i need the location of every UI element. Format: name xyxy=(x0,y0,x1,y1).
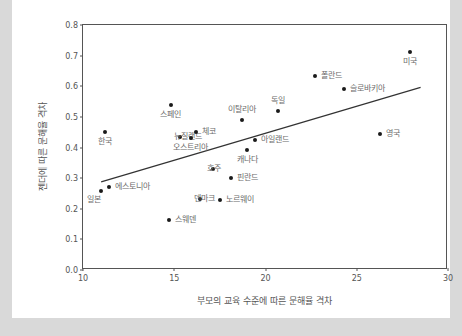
data-point-label: 스웨덴 xyxy=(175,216,196,224)
data-point-label: 아일랜드 xyxy=(261,136,289,144)
data-point xyxy=(103,130,107,134)
y-axis-title-text: 젠더에 따른 문해율 격차 xyxy=(36,102,49,191)
data-point xyxy=(253,138,257,142)
data-point xyxy=(408,50,412,54)
data-point-label: 한국 xyxy=(98,138,112,146)
x-axis-title: 부모의 교육 수준에 따른 문해율 격차 xyxy=(82,294,447,307)
chart-screenshot: 젠더에 따른 문해율 격차 0.00.10.20.30.40.50.60.70.… xyxy=(0,0,462,336)
y-axis-tick-mark xyxy=(80,25,83,26)
data-point xyxy=(169,103,173,107)
data-point-label: 체코 xyxy=(202,128,216,136)
x-axis-tick-mark xyxy=(174,268,175,271)
data-point xyxy=(218,198,222,202)
data-point-label: 노르웨이 xyxy=(226,196,254,204)
plot-area: 0.00.10.20.30.40.50.60.70.81015202530일본에… xyxy=(82,24,447,269)
data-point-label: 미국 xyxy=(403,58,417,66)
data-point-label: 독일 xyxy=(271,97,285,105)
data-point xyxy=(99,189,103,193)
data-point-label: 핀란드 xyxy=(237,174,258,182)
chart-card: 젠더에 따른 문해율 격차 0.00.10.20.30.40.50.60.70.… xyxy=(12,0,450,318)
data-point-label: 덴마크 xyxy=(194,195,215,203)
data-point-label: 일본 xyxy=(87,196,101,204)
data-point xyxy=(378,132,382,136)
data-point-label: 이탈리아 xyxy=(228,106,256,114)
x-axis-tick-mark xyxy=(356,268,357,271)
data-point-label: 오스트리아 xyxy=(173,144,208,152)
y-axis-tick-mark xyxy=(80,86,83,87)
y-axis-tick-mark xyxy=(80,208,83,209)
data-point-label: 폴란드 xyxy=(321,72,342,80)
y-axis-tick-mark xyxy=(80,147,83,148)
data-point xyxy=(342,87,346,91)
x-axis-title-text: 부모의 교육 수준에 따른 문해율 격차 xyxy=(197,296,331,306)
data-point xyxy=(107,185,111,189)
data-point-label: 슬로바키아 xyxy=(350,85,385,93)
y-axis-tick-mark xyxy=(80,55,83,56)
data-point xyxy=(276,109,280,113)
data-point-label: 에스토니아 xyxy=(115,183,150,191)
data-point xyxy=(229,176,233,180)
data-point xyxy=(167,218,171,222)
data-point-label: 스페인 xyxy=(160,111,181,119)
data-point-label: 호주 xyxy=(207,165,221,173)
trendline xyxy=(83,25,446,269)
data-point-label: 캐나다 xyxy=(237,156,258,164)
data-point-label: 영국 xyxy=(386,130,400,138)
y-axis-tick-mark xyxy=(80,116,83,117)
x-axis-tick-mark xyxy=(448,268,449,271)
y-axis-title: 젠더에 따른 문해율 격차 xyxy=(34,24,50,269)
x-axis-tick-mark xyxy=(265,268,266,271)
y-axis-tick-mark xyxy=(80,239,83,240)
plot-inner: 0.00.10.20.30.40.50.60.70.81015202530일본에… xyxy=(83,25,446,268)
data-point xyxy=(245,148,249,152)
data-point xyxy=(240,118,244,122)
data-point xyxy=(313,74,317,78)
data-point-label: 뉴질랜드 xyxy=(174,133,202,141)
y-axis-tick-mark xyxy=(80,178,83,179)
x-axis-tick-mark xyxy=(83,268,84,271)
